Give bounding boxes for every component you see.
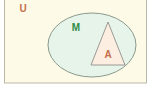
set-a-label: A	[104, 49, 111, 60]
venn-diagram-svg: U M A	[0, 0, 153, 96]
venn-diagram-container: U M A	[0, 0, 153, 96]
set-m-label: M	[72, 22, 80, 33]
universe-set-label: U	[19, 3, 26, 14]
set-m-ellipse	[48, 13, 136, 77]
